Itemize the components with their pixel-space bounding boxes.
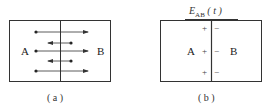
plus-sign-1: + <box>202 24 207 33</box>
minus-sign-2: − <box>214 47 219 56</box>
diagram-canvas <box>0 0 268 110</box>
panel-b-title-arg: ( t ) <box>207 5 221 16</box>
panel-a-caption: ( a ) <box>47 93 63 103</box>
panel-b <box>161 20 262 82</box>
arrow-right-2 <box>34 49 88 52</box>
panel-b-label-b: B <box>230 46 237 57</box>
minus-sign-1: − <box>214 24 219 33</box>
panel-b-caption: ( b ) <box>198 93 215 103</box>
panel-a-label-b: B <box>97 46 104 57</box>
arrow-right-1 <box>34 30 88 33</box>
panel-b-title-sub: AB <box>195 11 205 19</box>
plus-sign-2: + <box>202 47 207 56</box>
panel-b-label-a: A <box>187 46 195 57</box>
panel-a-label-a: A <box>21 46 29 57</box>
arrow-right-3 <box>34 69 88 72</box>
plus-sign-3: + <box>202 68 207 77</box>
minus-sign-3: − <box>214 68 219 77</box>
panel-b-title: EAB ( t ) <box>189 6 222 20</box>
